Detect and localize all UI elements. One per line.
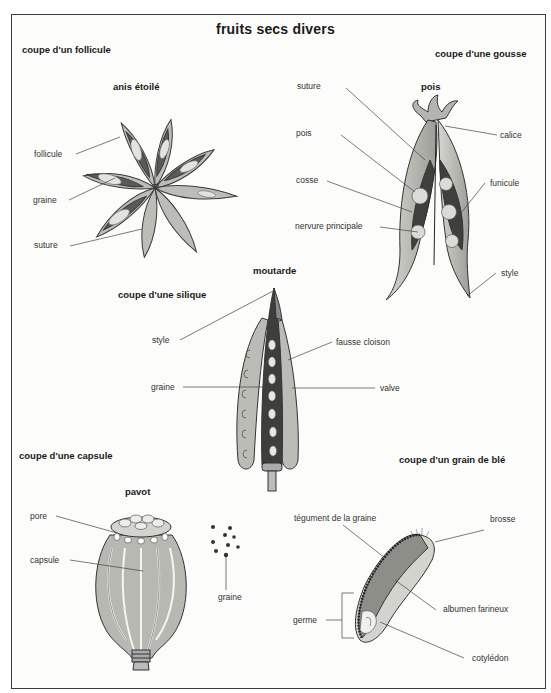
mustard-silique-illustration (237, 288, 299, 491)
section-heading-capsule: coupe d'une capsule (19, 450, 113, 461)
label-fausse-cloison: fausse cloison (336, 337, 390, 347)
specimen-name-mustard: moutarde (253, 265, 296, 276)
diagram-title: fruits secs divers (0, 21, 551, 37)
label-albumen-farineux: albumen farineux (443, 604, 508, 614)
label-cotyledon: cotylédon (472, 653, 508, 663)
label-capsule: capsule (30, 555, 59, 565)
label-nervure-principale: nervure principale (295, 221, 363, 231)
label-calice: calice (500, 130, 522, 140)
illustrations (0, 0, 551, 693)
label-style-pea: style (501, 268, 518, 278)
label-graine-mustard: graine (151, 382, 175, 392)
label-brosse: brosse (490, 514, 516, 524)
specimen-name-star-anise: anis étoilé (113, 81, 159, 92)
label-follicule: follicule (34, 149, 62, 159)
section-heading-wheat: coupe d'un grain de blé (399, 454, 505, 465)
poppy-seeds-illustration (211, 525, 240, 557)
label-suture-pea: suture (297, 81, 321, 91)
poppy-capsule-illustration (96, 515, 187, 670)
label-germe: germe (293, 615, 317, 625)
section-heading-silique: coupe d'une silique (118, 289, 206, 300)
section-heading-follicle: coupe d'un follicule (22, 44, 111, 55)
wheat-grain-illustration (355, 528, 434, 642)
label-cosse: cosse (296, 175, 318, 185)
specimen-name-poppy: pavot (125, 486, 150, 497)
pea-pod-illustration (386, 95, 470, 300)
section-heading-pod: coupe d'une gousse (435, 48, 526, 59)
label-style-mustard: style (152, 335, 169, 345)
label-pore: pore (30, 511, 47, 521)
label-tegument: tégument de la graine (294, 513, 376, 523)
label-funicule: funicule (490, 178, 519, 188)
label-graine-poppy: graine (218, 592, 242, 602)
label-suture-anise: suture (34, 240, 58, 250)
label-valve: valve (380, 383, 400, 393)
specimen-name-pea: pois (421, 81, 441, 92)
label-graine-anise: graine (33, 195, 57, 205)
label-pois: pois (296, 128, 312, 138)
